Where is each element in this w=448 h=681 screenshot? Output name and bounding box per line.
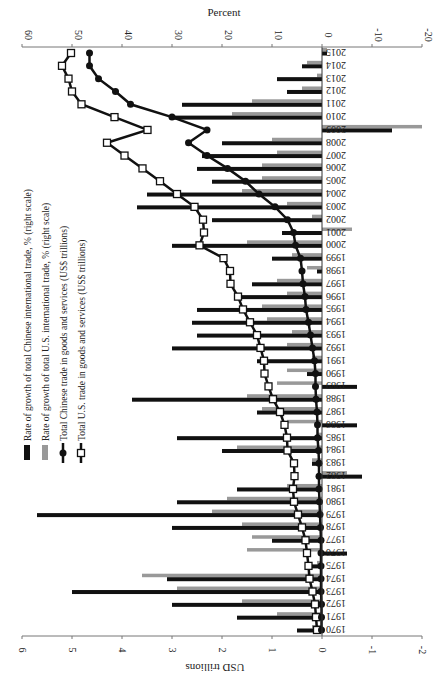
us-growth-bar: [292, 253, 322, 257]
year-label: 1974: [326, 573, 346, 584]
us-total-marker: [265, 383, 272, 390]
year-label: 1976: [326, 547, 346, 558]
us-growth-bar: [272, 138, 322, 142]
china-total-marker: [112, 88, 119, 95]
us-total-marker: [227, 280, 234, 287]
year-label: 1986: [326, 419, 346, 430]
year-label: 1977: [326, 534, 346, 545]
percent-axis-title: Percent: [208, 6, 241, 18]
year-label: 1994: [326, 316, 346, 327]
year-label: 2010: [326, 111, 346, 122]
bars-layer: [37, 48, 422, 633]
china-total-marker: [297, 255, 304, 262]
year-label: 1991: [326, 355, 346, 366]
year-label: 1970: [326, 624, 346, 635]
year-label: 1984: [326, 444, 346, 455]
china-growth-bar: [272, 257, 322, 261]
percent-tick-label: 30: [173, 30, 184, 40]
china-total-marker: [86, 50, 93, 57]
year-label: 1972: [326, 598, 346, 609]
china-total-marker: [316, 473, 323, 480]
china-total-marker: [305, 319, 312, 326]
year-label: 2008: [326, 137, 346, 148]
china-total-marker: [169, 114, 176, 121]
china-growth-bar: [282, 231, 322, 235]
china-total-marker: [313, 396, 320, 403]
year-label: 1988: [326, 393, 346, 404]
us-growth-bar: [252, 535, 322, 539]
china-total-marker: [318, 575, 325, 582]
china-growth-bar: [172, 116, 322, 120]
legend: Rate of growth of total Chinese internat…: [23, 189, 88, 463]
percent-tick-label: 20: [223, 30, 234, 40]
china-total-marker: [312, 383, 319, 390]
us-growth-bar: [312, 215, 322, 219]
china-total-marker: [284, 216, 291, 223]
china-growth-bar: [182, 103, 322, 107]
china-total-marker: [303, 306, 310, 313]
us-total-marker: [240, 306, 247, 313]
china-total-marker: [311, 357, 318, 364]
china-growth-bar: [172, 603, 322, 607]
us-total-marker: [257, 344, 264, 351]
china-growth-bar: [132, 398, 322, 402]
china-total-marker: [127, 101, 134, 108]
us-growth-bar: [307, 266, 322, 270]
china-total-marker: [316, 460, 323, 467]
us-growth-bar: [277, 151, 322, 155]
us-total-marker: [305, 562, 312, 569]
us-growth-bar: [287, 202, 322, 206]
year-label: 2007: [326, 150, 346, 161]
year-label: 2002: [326, 214, 346, 225]
china-growth-bar: [302, 64, 322, 68]
us-growth-bar: [262, 176, 322, 180]
china-growth-bar: [167, 577, 322, 581]
us-total-marker: [312, 601, 319, 608]
year-label: 2011: [326, 98, 346, 109]
china-growth-bar: [277, 77, 322, 81]
china-growth-bar: [137, 205, 322, 209]
us-total-marker: [200, 216, 207, 223]
china-growth-bar: [177, 500, 322, 504]
us-growth-bar: [307, 61, 322, 64]
china-total-marker: [224, 165, 231, 172]
year-label: 1996: [326, 291, 346, 302]
percent-tick-label: -20: [423, 28, 434, 41]
china-total-marker: [292, 242, 299, 249]
us-total-marker: [220, 255, 227, 262]
china-growth-bar: [177, 436, 322, 440]
us-total-marker: [174, 191, 181, 198]
china-total-marker: [318, 562, 325, 569]
year-label: 1992: [326, 342, 346, 353]
us-total-marker: [284, 434, 291, 441]
us-growth-bar: [262, 304, 322, 308]
china-total-marker: [318, 537, 325, 544]
us-growth-bar: [247, 240, 322, 244]
china-total-marker: [317, 524, 324, 531]
china-total-marker: [299, 267, 306, 274]
year-label: 1971: [326, 611, 346, 622]
china-total-marker: [290, 229, 297, 236]
usd-axis-title: USD trillions: [186, 662, 245, 674]
china-total-marker: [242, 178, 249, 185]
us-total-marker: [261, 370, 268, 377]
china-growth-bar: [222, 141, 322, 145]
us-total-marker: [309, 588, 316, 595]
legend-label: Total Chinese trade in goods and service…: [59, 226, 70, 441]
us-growth-bar: [232, 112, 322, 116]
china-growth-bar: [257, 411, 322, 415]
china-growth-bar: [237, 616, 322, 620]
year-label: 2014: [326, 60, 346, 71]
china-total-marker: [300, 280, 307, 287]
usd-tick-label: -2: [417, 646, 428, 654]
china-growth-bar: [172, 244, 322, 248]
usd-tick-label: 4: [117, 648, 128, 653]
china-growth-bar: [192, 321, 322, 325]
us-total-marker: [235, 293, 242, 300]
year-label: 2013: [326, 73, 346, 84]
percent-tick-label: 50: [73, 30, 84, 40]
percent-tick-label: 40: [123, 30, 134, 40]
legend-label: Rate of growth of total U.S. internation…: [41, 203, 52, 441]
usd-tick-label: -1: [367, 646, 378, 654]
us-total-marker: [227, 267, 234, 274]
